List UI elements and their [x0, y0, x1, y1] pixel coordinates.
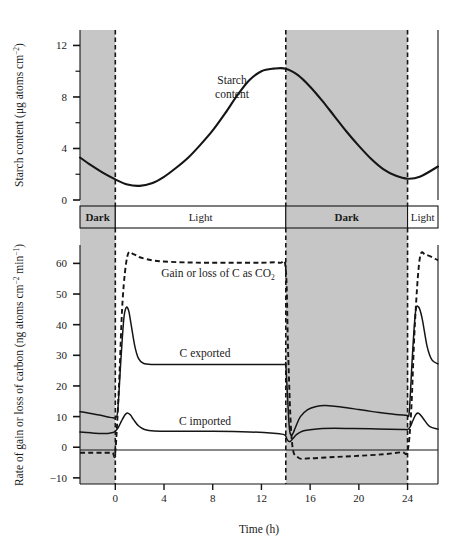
- top-y-axis-title: Starch content (μg atoms cm−2): [12, 43, 26, 187]
- dark-shade-top-second: [286, 30, 408, 206]
- top-y-tick-label: 4: [62, 142, 68, 154]
- scientific-chart: 04812 Starch content Starch content (μg …: [0, 0, 463, 559]
- x-tick-label: 20: [353, 492, 365, 504]
- x-tick-label: 8: [210, 492, 216, 504]
- co2-annotation-text: Gain or loss of C as CO: [161, 267, 271, 279]
- top-y-tick-label: 8: [62, 91, 68, 103]
- phase-label-light-3: Light: [411, 211, 435, 223]
- bottom-y-tick-label: 40: [56, 319, 68, 331]
- phase-label-dark-2: Dark: [334, 211, 359, 223]
- light-dark-phase-bar: DarkLightDarkLight: [80, 206, 438, 228]
- bottom-y-tick-label: 20: [56, 380, 68, 392]
- top-y-tick-label: 0: [62, 194, 68, 206]
- x-tick-label: 12: [256, 492, 267, 504]
- c-exported-annotation: C exported: [180, 347, 231, 360]
- top-y-ticks: [73, 45, 80, 200]
- bottom-y-tick-label: 60: [56, 257, 68, 269]
- bottom-axis-title-b: min: [13, 256, 25, 277]
- dark-shade-top-first: [80, 30, 115, 206]
- c-imported-annotation: C imported: [179, 415, 231, 428]
- bottom-y-tick-labels: −100102030405060: [50, 257, 68, 483]
- dark-shade-bottom-first: [80, 228, 115, 484]
- starch-annotation-line1: Starch: [217, 74, 247, 86]
- top-y-tick-label: 12: [56, 39, 67, 51]
- bottom-y-tick-label: 10: [56, 411, 68, 423]
- bottom-y-ticks: [73, 263, 80, 477]
- bottom-axis-title-close: ): [13, 244, 26, 248]
- bottom-y-axis-title: Rate of gain or loss of carbon (ng atoms…: [12, 244, 26, 486]
- bottom-y-tick-label: 30: [56, 349, 68, 361]
- bottom-y-tick-label: −10: [50, 472, 68, 484]
- x-tick-label: 24: [402, 492, 414, 504]
- svg-text:Rate of gain or loss of carbon: Rate of gain or loss of carbon (ng atoms…: [12, 244, 26, 486]
- co2-annotation-subscript: 2: [271, 273, 275, 282]
- x-axis-title: Time (h): [239, 523, 279, 536]
- top-axis-title-a: Starch content (: [13, 114, 26, 187]
- svg-text:Starch content (μg atoms cm−2): Starch content (μg atoms cm−2): [12, 43, 26, 187]
- x-tick-label: 16: [305, 492, 317, 504]
- starch-annotation-line2: content: [215, 88, 250, 100]
- dark-shade-bottom-second: [286, 228, 408, 484]
- phase-label-light-1: Light: [189, 211, 213, 223]
- top-axis-title-unit: μg atoms cm: [13, 55, 26, 114]
- phase-label-dark-0: Dark: [85, 211, 110, 223]
- bottom-y-tick-label: 50: [56, 288, 68, 300]
- co2-annotation: Gain or loss of C as CO2: [161, 267, 275, 282]
- x-axis-ticks: [115, 484, 407, 490]
- x-tick-label: 0: [113, 492, 119, 504]
- top-axis-title-close: ): [13, 43, 26, 47]
- bottom-y-tick-label: 0: [62, 441, 68, 453]
- top-y-tick-labels: 04812: [56, 39, 68, 206]
- bottom-axis-title-a: Rate of gain or loss of carbon (ng atoms…: [13, 284, 26, 486]
- x-axis-tick-labels: 04812162024: [113, 492, 414, 504]
- figure-container: 04812 Starch content Starch content (μg …: [0, 0, 463, 559]
- x-tick-label: 4: [161, 492, 167, 504]
